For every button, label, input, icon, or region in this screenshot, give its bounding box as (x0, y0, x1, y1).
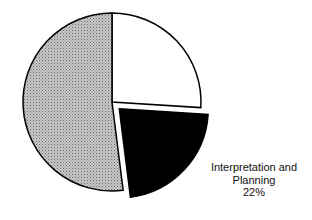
pie-slice (23, 13, 123, 191)
label-line-1: Interpretation and (196, 161, 312, 174)
pie-slice (119, 109, 208, 197)
label-line-2: Planning (196, 174, 312, 187)
slice-label-interpretation: Interpretation and Planning 22% (196, 161, 312, 199)
label-percent: 22% (196, 186, 312, 199)
pie-slice (112, 13, 201, 108)
